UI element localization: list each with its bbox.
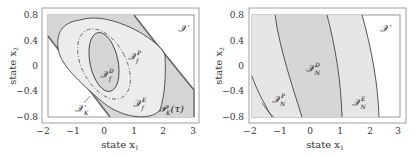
right-y-ticks: 0.8 0.4 0 −0.4 −0.8 [222,10,244,122]
left-y-axis-label: state x2 [7,47,19,85]
svg-text:−2: −2 [36,126,49,136]
svg-text:0: 0 [238,61,244,71]
right-x-ticks: −2 −1 0 1 2 3 [243,126,401,136]
right-label-XND: 𝒳DN [306,61,321,76]
svg-text:−0.4: −0.4 [222,86,244,96]
left-x-ticks: −2 −1 0 1 2 3 [36,126,196,136]
svg-text:−2: −2 [243,126,256,136]
svg-text:−0.8: −0.8 [16,112,38,122]
right-label-XNE: 𝒳EN [352,95,366,110]
svg-text:0.4: 0.4 [230,36,245,46]
svg-text:−1: −1 [66,126,79,136]
right-label-XNP: 𝒳PN [272,92,286,107]
svg-text:0: 0 [32,61,38,71]
svg-text:0: 0 [307,126,313,136]
right-plot: 𝒳 𝒳DN 𝒳EN 𝒳PN −2 −1 0 1 2 3 0.8 0.4 0 −0… [213,8,406,151]
svg-text:0.4: 0.4 [24,36,39,46]
figure: 𝒳 𝒳Pf 𝒳Df 𝒳Ef 𝒫K(τ) 𝒳K −2 −1 0 1 2 3 0.8… [0,0,414,157]
right-x-axis-label: state x1 [306,139,344,151]
svg-text:2: 2 [367,126,373,136]
left-x-axis-label: state x1 [101,139,139,151]
svg-text:0: 0 [101,126,107,136]
svg-text:−0.8: −0.8 [222,112,244,122]
right-y-axis-label: state x2 [213,47,225,85]
svg-text:3: 3 [190,126,196,136]
svg-text:−0.4: −0.4 [16,86,38,96]
svg-text:1: 1 [131,126,137,136]
svg-text:0.8: 0.8 [230,10,245,20]
svg-text:−1: −1 [273,126,286,136]
svg-text:1: 1 [337,126,343,136]
svg-text:2: 2 [160,126,166,136]
svg-text:3: 3 [395,126,401,136]
left-plot: 𝒳 𝒳Pf 𝒳Df 𝒳Ef 𝒫K(τ) 𝒳K −2 −1 0 1 2 3 0.8… [7,8,199,151]
svg-text:0.8: 0.8 [24,10,39,20]
left-y-ticks: 0.8 0.4 0 −0.4 −0.8 [16,10,38,122]
